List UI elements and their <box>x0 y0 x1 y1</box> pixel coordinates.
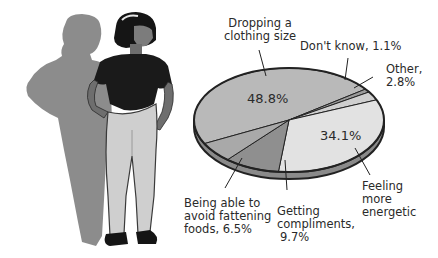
label-energetic: Feeling more energetic <box>362 180 416 219</box>
label-avoid-foods: Being able to avoid fattening foods, 6.5… <box>184 197 271 236</box>
pct-dropping: 48.8% <box>247 91 288 106</box>
label-compliments: Getting compliments, 9.7% <box>277 205 355 244</box>
label-other-line2: 2.8% <box>386 76 422 89</box>
label-other: Other, 2.8% <box>386 63 422 89</box>
label-dropping: Dropping a clothing size <box>224 17 296 43</box>
label-compliments-line3: 9.7% <box>277 231 355 244</box>
label-dont-know: Don't know, 1.1% <box>300 40 401 53</box>
pie-slices <box>194 68 384 172</box>
label-dropping-line2: clothing size <box>224 30 296 43</box>
pct-energetic: 34.1% <box>320 128 361 143</box>
label-energetic-line3: energetic <box>362 206 416 219</box>
label-avoid-line3: foods, 6.5% <box>184 223 271 236</box>
